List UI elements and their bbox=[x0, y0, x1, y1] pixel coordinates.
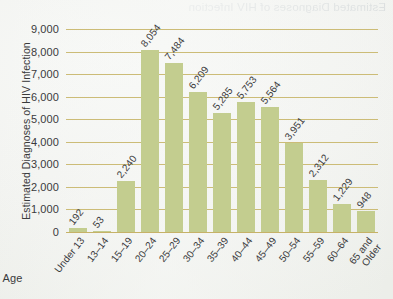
bar-value-label: 5,753 bbox=[234, 74, 258, 101]
bar-slot: 6,209 bbox=[186, 29, 210, 232]
bar[interactable]: 8,054 bbox=[141, 50, 159, 232]
bar-value-label: 53 bbox=[90, 214, 106, 230]
bar-slot: 5,564 bbox=[258, 29, 282, 232]
y-axis-tick-label: 9,000 bbox=[31, 23, 59, 35]
x-axis-title-text: Age bbox=[2, 272, 22, 284]
bar-series: 192532,2408,0547,4846,2095,2855,7535,564… bbox=[66, 29, 378, 232]
bar-slot: 192 bbox=[66, 29, 90, 232]
x-axis-tick-label: Under 13 bbox=[52, 235, 86, 275]
y-axis-title-text: Estimated Diagnoses of HIV Infection bbox=[20, 42, 32, 220]
bar[interactable]: 3,951 bbox=[285, 143, 303, 232]
bar-value-label: 7,484 bbox=[162, 35, 186, 62]
bar-slot: 2,312 bbox=[306, 29, 330, 232]
bar-slot: 53 bbox=[90, 29, 114, 232]
y-axis-tick-label: 7,000 bbox=[31, 68, 59, 80]
bar[interactable]: 6,209 bbox=[189, 92, 207, 232]
x-axis-title: Age bbox=[0, 272, 393, 284]
bar[interactable]: 7,484 bbox=[165, 63, 183, 232]
bar[interactable]: 192 bbox=[69, 228, 87, 232]
bar[interactable]: 1,229 bbox=[333, 204, 351, 232]
bar[interactable]: 53 bbox=[93, 231, 111, 232]
bar[interactable]: 2,240 bbox=[117, 181, 135, 232]
bar-value-label: 6,209 bbox=[186, 64, 210, 91]
bar-value-label: 2,240 bbox=[114, 154, 138, 181]
bar-slot: 948 bbox=[354, 29, 378, 232]
plot-area: 9,0008,0007,0006,0005,0004,0003,0002,000… bbox=[66, 29, 378, 232]
bar-value-label: 2,312 bbox=[306, 152, 330, 179]
bar-value-label: 8,054 bbox=[138, 22, 162, 49]
bar-slot: 8,054 bbox=[138, 29, 162, 232]
bar-value-label: 5,285 bbox=[210, 85, 234, 112]
bar-slot: 1,229 bbox=[330, 29, 354, 232]
bar[interactable]: 948 bbox=[357, 211, 375, 232]
bar[interactable]: 5,564 bbox=[261, 107, 279, 232]
bar-value-label: 3,951 bbox=[282, 115, 306, 142]
bar[interactable]: 5,753 bbox=[237, 102, 255, 232]
bar-slot: 5,285 bbox=[210, 29, 234, 232]
bar-slot: 5,753 bbox=[234, 29, 258, 232]
bar-value-label: 948 bbox=[354, 189, 373, 209]
bar-chart: Estimated Diagnoses of HIV Infection 9,0… bbox=[0, 0, 393, 299]
bar-slot: 3,951 bbox=[282, 29, 306, 232]
y-axis-tick-label: 5,000 bbox=[31, 113, 59, 125]
bar-value-label: 1,229 bbox=[330, 176, 354, 203]
bar-value-label: 192 bbox=[66, 207, 85, 227]
bar-value-label: 5,564 bbox=[258, 79, 282, 106]
y-axis-tick-label: 1,000 bbox=[31, 203, 59, 215]
y-axis-tick-label: 2,000 bbox=[31, 181, 59, 193]
y-axis-tick-label: 3,000 bbox=[31, 158, 59, 170]
y-axis-tick-label: 4,000 bbox=[31, 136, 59, 148]
y-axis-tick-label: 8,000 bbox=[31, 46, 59, 58]
y-axis-tick-label: 6,000 bbox=[31, 91, 59, 103]
bar[interactable]: 2,312 bbox=[309, 180, 327, 232]
bar-slot: 2,240 bbox=[114, 29, 138, 232]
bar-slot: 7,484 bbox=[162, 29, 186, 232]
y-axis-tick-label: 0 bbox=[53, 226, 59, 238]
bar[interactable]: 5,285 bbox=[213, 113, 231, 232]
